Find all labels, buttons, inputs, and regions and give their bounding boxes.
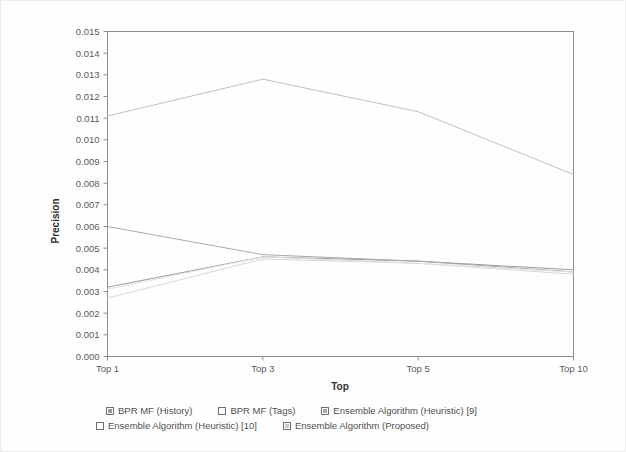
legend-row: BPR MF (History) BPR MF (Tags) Ensemble … xyxy=(96,403,536,418)
legend-label: Ensemble Algorithm (Proposed) xyxy=(295,420,429,431)
x-tick-label: Top 1 xyxy=(96,363,119,374)
legend-swatch-icon xyxy=(321,407,329,415)
legend-swatch-icon xyxy=(218,407,226,415)
y-axis-ticks: 0.0000.0010.0020.0030.0040.0050.0060.007… xyxy=(76,26,108,362)
y-tick-label: 0.015 xyxy=(76,26,100,37)
y-tick-label: 0.003 xyxy=(76,286,100,297)
legend-swatch-icon xyxy=(283,422,291,430)
legend-label: Ensemble Algorithm (Heuristic) [9] xyxy=(333,405,477,416)
y-axis-title: Precision xyxy=(50,198,61,243)
y-tick-label: 0.012 xyxy=(76,91,100,102)
data-series-group xyxy=(108,79,574,298)
y-tick-label: 0.010 xyxy=(76,134,100,145)
y-tick-label: 0.001 xyxy=(76,329,100,340)
chart-legend: BPR MF (History) BPR MF (Tags) Ensemble … xyxy=(96,403,536,433)
legend-row: Ensemble Algorithm (Heuristic) [10] Ense… xyxy=(96,418,536,433)
legend-item-bpr-mf-history[interactable]: BPR MF (History) xyxy=(106,405,192,416)
chart-plot: 0.0000.0010.0020.0030.0040.0050.0060.007… xyxy=(1,1,626,401)
series-line-1 xyxy=(108,259,574,298)
legend-swatch-icon xyxy=(96,422,104,430)
y-tick-label: 0.002 xyxy=(76,308,100,319)
series-line-4 xyxy=(108,79,574,174)
x-axis-title: Top xyxy=(331,381,349,392)
x-tick-label: Top 3 xyxy=(251,363,274,374)
y-tick-label: 0.013 xyxy=(76,69,100,80)
legend-item-ensemble-proposed[interactable]: Ensemble Algorithm (Proposed) xyxy=(283,420,429,431)
series-line-2 xyxy=(108,227,574,273)
x-tick-label: Top 10 xyxy=(559,363,588,374)
plot-frame xyxy=(108,32,574,357)
legend-label: BPR MF (Tags) xyxy=(230,405,295,416)
y-tick-label: 0.004 xyxy=(76,264,100,275)
y-tick-label: 0.014 xyxy=(76,48,100,59)
y-tick-label: 0.007 xyxy=(76,199,100,210)
y-tick-label: 0.000 xyxy=(76,351,100,362)
y-tick-label: 0.008 xyxy=(76,178,100,189)
legend-item-ensemble-heuristic-10[interactable]: Ensemble Algorithm (Heuristic) [10] xyxy=(96,420,257,431)
y-tick-label: 0.009 xyxy=(76,156,100,167)
legend-item-bpr-mf-tags[interactable]: BPR MF (Tags) xyxy=(218,405,295,416)
legend-label: BPR MF (History) xyxy=(118,405,192,416)
x-tick-label: Top 5 xyxy=(407,363,430,374)
plot-frame-rect xyxy=(108,32,574,357)
y-tick-label: 0.006 xyxy=(76,221,100,232)
y-tick-label: 0.005 xyxy=(76,243,100,254)
legend-item-ensemble-heuristic-9[interactable]: Ensemble Algorithm (Heuristic) [9] xyxy=(321,405,477,416)
legend-swatch-icon xyxy=(106,407,114,415)
x-axis-ticks: Top 1Top 3Top 5Top 10 xyxy=(96,357,588,374)
y-tick-label: 0.011 xyxy=(76,113,99,124)
figure-container: 0.0000.0010.0020.0030.0040.0050.0060.007… xyxy=(0,0,626,452)
legend-label: Ensemble Algorithm (Heuristic) [10] xyxy=(108,420,257,431)
